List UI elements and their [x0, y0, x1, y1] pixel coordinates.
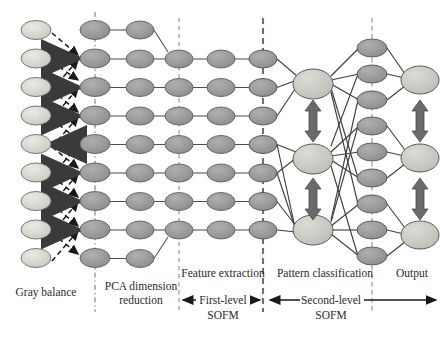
node-sofm1b [165, 164, 193, 182]
output-arrow-1 [412, 100, 428, 142]
node-feature [249, 136, 277, 154]
node-input [21, 192, 51, 211]
node-pca [80, 220, 110, 239]
node-sofm1a [126, 193, 154, 211]
node-input [21, 21, 51, 40]
node-input [21, 49, 51, 68]
sofm1-layer-a [126, 21, 154, 268]
label-pattern-classification: Pattern classification [277, 267, 373, 279]
label-output: Output [396, 267, 429, 280]
gray-balance-input-layer [21, 21, 51, 268]
node-sofm1a [126, 164, 154, 182]
node-hidden [357, 169, 387, 187]
node-pca [80, 163, 110, 182]
node-pca [80, 249, 110, 268]
second-sofm-hidden-layer [357, 39, 387, 265]
node-input [21, 249, 51, 268]
pattern-arrow-2 [305, 178, 321, 220]
node-sofm1b [165, 193, 193, 211]
gray-balance-correction-arrows [52, 59, 76, 231]
node-pca [80, 135, 110, 154]
node-sofm1a [126, 221, 154, 239]
node-input [21, 163, 51, 182]
node-sofm1c [207, 221, 235, 239]
node-input [21, 220, 51, 239]
pattern-arrow-1 [305, 100, 321, 142]
node-sofm1c [207, 136, 235, 154]
node-output [401, 144, 439, 172]
node-sofm1a [126, 107, 154, 125]
label-first-level-line1-top: First-level [199, 294, 246, 306]
sofm1-layer-c [207, 50, 235, 239]
node-output [401, 221, 439, 249]
pattern-to-hidden-links [331, 48, 359, 256]
node-hidden [357, 91, 387, 109]
node-hidden [357, 221, 387, 239]
label-pca-line2: reduction [119, 294, 163, 306]
node-sofm1b [165, 221, 193, 239]
node-hidden [357, 65, 387, 83]
node-pca [80, 192, 110, 211]
node-sofm1b [165, 50, 193, 68]
node-feature [249, 50, 277, 68]
node-input [21, 135, 51, 154]
node-pca [80, 106, 110, 125]
node-sofm1a [126, 50, 154, 68]
node-feature [249, 107, 277, 125]
node-hidden [357, 247, 387, 265]
node-sofm1b [165, 107, 193, 125]
node-sofm1b [165, 79, 193, 97]
node-output [401, 66, 439, 94]
node-feature [249, 193, 277, 211]
node-sofm1a [126, 136, 154, 154]
node-sofm1c [207, 50, 235, 68]
node-hidden [357, 143, 387, 161]
node-pca [80, 78, 110, 97]
label-pca-line1: PCA dimension [105, 280, 178, 292]
node-feature [249, 164, 277, 182]
node-input [21, 78, 51, 97]
node-sofm1c [207, 164, 235, 182]
node-hidden [357, 195, 387, 213]
node-sofm1a [126, 79, 154, 97]
output-layer [401, 66, 439, 249]
node-pca [80, 21, 110, 40]
node-sofm1a [126, 21, 154, 39]
label-feature-extraction: Feature extraction [181, 267, 265, 279]
label-second-level-line2: SOFM [315, 309, 346, 321]
node-feature [249, 79, 277, 97]
node-hidden [357, 39, 387, 57]
node-hidden [357, 117, 387, 135]
sofm1-layer-b [165, 50, 193, 239]
node-sofm1b [165, 136, 193, 154]
node-sofm1c [207, 193, 235, 211]
node-feature [249, 221, 277, 239]
node-sofm1c [207, 79, 235, 97]
network-architecture-diagram: Gray balance PCA dimension reduction Fea… [0, 0, 444, 341]
node-pattern [293, 144, 333, 174]
output-arrow-2 [412, 178, 428, 220]
label-gray-balance: Gray balance [16, 286, 77, 299]
node-pca [80, 49, 110, 68]
pca-layer [80, 21, 110, 268]
label-second-level-line1: Second-level [301, 294, 361, 306]
node-input [21, 106, 51, 125]
node-pattern [293, 69, 333, 99]
feature-output-layer [249, 50, 277, 239]
node-sofm1c [207, 107, 235, 125]
label-first-level-line2: SOFM [207, 309, 238, 321]
diagram-canvas: Gray balance PCA dimension reduction Fea… [0, 0, 444, 341]
node-sofm1a [126, 250, 154, 268]
